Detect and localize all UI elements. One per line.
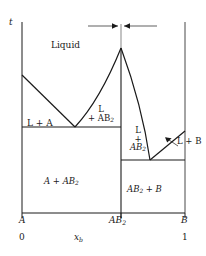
region-label-liquid-plus-ab2-left: L + AB2: [82, 105, 120, 124]
region-label-ab2-plus-b: AB2 + B: [127, 185, 162, 195]
x-tick-value-1: 1: [182, 233, 188, 242]
liquid-plus-ab2-left-line2-text: + AB: [88, 113, 110, 123]
x-tick-label-B: B: [181, 216, 188, 225]
stoichiometry-left-arrowhead: [112, 23, 118, 29]
region-label-liquid: Liquid: [51, 41, 80, 50]
liquid-plus-ab2-left-sub: 2: [110, 117, 114, 123]
phase-diagram-figure: t Liquid L + A L + AB2 L + AB2 L + B A +…: [0, 0, 206, 256]
region-label-liquid-plus-ab2-right: L + AB2: [124, 126, 152, 154]
ab2-plus-b-pre: AB: [127, 184, 139, 194]
liquid-plus-ab2-right-line3: AB2: [124, 143, 152, 153]
x-tick-label-A: A: [19, 216, 26, 225]
l-plus-b-pointer-arrowhead: [165, 137, 172, 142]
region-label-liquid-plus-a: L + A: [27, 119, 53, 128]
y-axis-label: t: [9, 18, 13, 27]
x-tick-value-0: 0: [19, 233, 25, 242]
region-label-liquid-plus-b: L + B: [177, 137, 201, 146]
x-tick-label-AB2: AB2: [109, 216, 126, 226]
ab2-plus-b-post: + B: [143, 184, 162, 194]
liquid-plus-ab2-right-sub: 2: [142, 147, 146, 153]
x-tick-label-ab2-sub: 2: [122, 219, 126, 226]
x-tick-label-ab2-text: AB: [109, 215, 122, 225]
x-axis-label-sub: b: [79, 236, 83, 243]
liquid-plus-ab2-left-line2: + AB2: [82, 114, 120, 124]
stoichiometry-right-arrowhead: [124, 23, 130, 29]
region-label-a-plus-ab2: A + AB2: [44, 177, 79, 187]
liquid-plus-ab2-right-line3-text: AB: [130, 142, 142, 152]
a-plus-ab2-text: A + AB: [44, 176, 75, 186]
a-plus-ab2-sub: 2: [75, 180, 79, 186]
x-axis-label: xb: [74, 233, 83, 243]
